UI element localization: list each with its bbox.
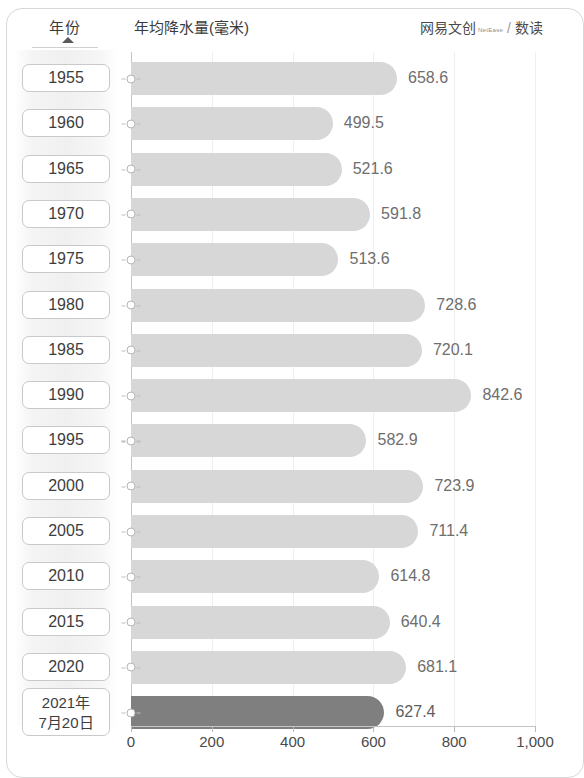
- bar[interactable]: [131, 198, 370, 231]
- bar-value-label: 842.6: [482, 386, 522, 404]
- x-axis-tick: [212, 727, 213, 732]
- x-axis-tick-label: 1,000: [516, 733, 554, 750]
- bar[interactable]: [131, 62, 397, 95]
- bar-value-label: 499.5: [344, 114, 384, 132]
- axis-row-marker[interactable]: [127, 436, 136, 445]
- axis-row-marker[interactable]: [127, 572, 136, 581]
- bar-value-label: 640.4: [401, 613, 441, 631]
- axis-row-marker[interactable]: [127, 527, 136, 536]
- axis-row-marker[interactable]: [127, 482, 136, 491]
- x-axis-tick-label: 200: [199, 733, 224, 750]
- bar-value-label: 591.8: [381, 205, 421, 223]
- bar-value-label: 720.1: [433, 341, 473, 359]
- bar[interactable]: [131, 289, 425, 322]
- axis-row-marker[interactable]: [127, 210, 136, 219]
- bar[interactable]: [131, 560, 379, 593]
- x-axis-tick-label: 600: [361, 733, 386, 750]
- axis-row-marker[interactable]: [127, 74, 136, 83]
- axis-row-marker[interactable]: [127, 119, 136, 128]
- x-axis-tick: [293, 727, 294, 732]
- bar-value-label: 513.6: [349, 250, 389, 268]
- axis-row-marker[interactable]: [127, 663, 136, 672]
- x-axis-tick: [535, 727, 536, 732]
- bar[interactable]: [131, 424, 366, 457]
- bar-value-label: 711.4: [429, 522, 468, 540]
- axis-row-marker[interactable]: [127, 301, 136, 310]
- x-axis-tick-label: 400: [280, 733, 305, 750]
- axis-row-marker[interactable]: [127, 391, 136, 400]
- bar-value-label: 521.6: [353, 160, 393, 178]
- axis-row-marker[interactable]: [127, 165, 136, 174]
- bar[interactable]: [131, 107, 333, 140]
- bar[interactable]: [131, 515, 418, 548]
- bar-value-label: 658.6: [408, 69, 448, 87]
- x-axis-tick: [373, 727, 374, 732]
- bar[interactable]: [131, 334, 422, 367]
- bar-value-label: 723.9: [434, 477, 474, 495]
- bar[interactable]: [131, 243, 338, 276]
- bar-value-label: 728.6: [436, 296, 476, 314]
- x-axis-line: [131, 726, 536, 727]
- x-axis-tick: [454, 727, 455, 732]
- x-axis-tick-label: 800: [442, 733, 467, 750]
- bar-value-label: 582.9: [377, 431, 417, 449]
- axis-row-marker[interactable]: [127, 708, 136, 717]
- x-axis-tick-label: 0: [127, 733, 135, 750]
- axis-row-marker[interactable]: [127, 255, 136, 264]
- axis-row-marker[interactable]: [127, 346, 136, 355]
- bar[interactable]: [131, 379, 471, 412]
- gridline: [535, 52, 536, 726]
- bar[interactable]: [131, 651, 406, 684]
- axis-row-marker[interactable]: [127, 618, 136, 627]
- bar-value-label: 627.4: [395, 703, 435, 721]
- bar[interactable]: [131, 153, 342, 186]
- x-axis-tick: [131, 727, 132, 732]
- bar[interactable]: [131, 606, 390, 639]
- bar-value-label: 681.1: [417, 658, 457, 676]
- bar[interactable]: [131, 696, 384, 729]
- bar[interactable]: [131, 470, 423, 503]
- bar-value-label: 614.8: [390, 567, 430, 585]
